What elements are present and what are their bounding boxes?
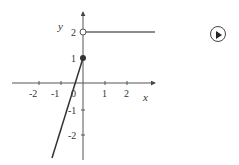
x-axis-label: x <box>142 91 148 103</box>
y-tick-label: -1 <box>68 105 76 116</box>
x-tick-label: -1 <box>51 88 59 99</box>
y-axis-label: y <box>57 20 63 32</box>
x-tick-label: -2 <box>29 88 37 99</box>
segment-left <box>52 58 83 158</box>
play-icon <box>216 31 222 39</box>
y-tick-label: 2 <box>71 27 76 38</box>
y-tick-label: 1 <box>71 53 76 64</box>
x-tick-label: 1 <box>102 88 107 99</box>
play-button[interactable] <box>210 26 226 42</box>
y-tick-label: -2 <box>68 130 76 141</box>
x-tick-label: 2 <box>124 88 129 99</box>
function-graph: -2 -1 0 1 2 2 1 -1 -2 y x <box>0 0 239 165</box>
filled-point <box>80 55 86 61</box>
open-point <box>80 29 86 35</box>
